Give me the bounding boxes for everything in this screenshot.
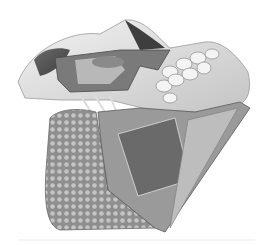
anatomical-illustration (0, 0, 265, 245)
skull-dissection-drawing (0, 0, 265, 245)
